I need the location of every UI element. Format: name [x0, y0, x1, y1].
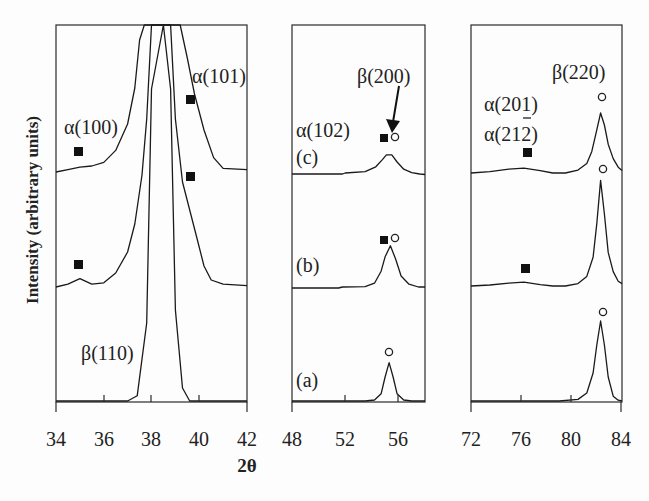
beta-circle-marker-icon: [391, 133, 398, 140]
annotation-alpha-102: α(102): [296, 119, 350, 142]
alpha-square-marker-icon: [523, 148, 532, 157]
tick-label: 52: [335, 428, 355, 450]
beta-circle-marker-icon: [598, 93, 605, 100]
annotation-alpha-201: α(201): [484, 93, 538, 116]
tick-label: 72: [461, 428, 481, 450]
tick-label: 40: [189, 428, 209, 450]
alpha-square-marker-icon: [521, 264, 530, 273]
beta-circle-marker-icon: [599, 308, 606, 315]
panel-1-ticks: [56, 395, 247, 412]
beta-circle-marker-icon: [391, 234, 398, 241]
xrd-trace-a: [471, 321, 622, 401]
alpha-square-marker-icon: [380, 236, 388, 244]
alpha-square-marker-icon: [74, 260, 83, 269]
trace-label-c: (c): [296, 146, 318, 169]
x-axis-label: 2θ: [237, 455, 257, 476]
panel-3-curves: [471, 113, 622, 401]
annotation-alpha-101: α(101): [192, 65, 246, 88]
trace-label-b: (b): [296, 254, 319, 277]
xrd-figure: Intensity (arbitrary units) 34 36 38 40 …: [0, 0, 649, 501]
annotation-alpha-2bar12: α(212): [484, 123, 538, 146]
annotation-beta-220: β(220): [552, 61, 606, 84]
panel-2-ticks: [292, 395, 398, 412]
panel-2: 48 52 56 β(200) α(102) (c) (b) (a): [282, 25, 425, 450]
arrowhead-icon: [386, 119, 400, 133]
alpha-square-marker-icon: [186, 172, 195, 181]
panel-2-curves: [292, 155, 425, 401]
panel-3-ticks: [471, 395, 621, 412]
panel-1: 34 36 38 40 42 α(100) α(101) β(110): [46, 25, 257, 450]
trace-label-a: (a): [296, 369, 318, 392]
y-axis-label: Intensity (arbitrary units): [23, 116, 42, 304]
beta-circle-marker-icon: [385, 348, 392, 355]
alpha-square-marker-icon: [74, 147, 83, 156]
tick-label: 84: [611, 428, 631, 450]
alpha-square-marker-icon: [186, 95, 195, 104]
beta-circle-marker-icon: [599, 165, 606, 172]
annotation-beta-200: β(200): [357, 65, 411, 88]
tick-label: 38: [141, 428, 161, 450]
tick-label: 80: [561, 428, 581, 450]
panel-3: 72 76 80 84 β(220) α(201) α(212): [461, 25, 631, 450]
chart-svg: Intensity (arbitrary units) 34 36 38 40 …: [0, 0, 649, 501]
tick-label: 76: [511, 428, 531, 450]
arrow-icon: [393, 86, 399, 122]
xrd-trace-b: [471, 180, 622, 286]
tick-label: 34: [46, 428, 66, 450]
annotation-alpha-100: α(100): [64, 116, 118, 139]
tick-label: 48: [282, 428, 302, 450]
alpha-square-marker-icon: [380, 134, 388, 142]
tick-label: 42: [237, 428, 257, 450]
annotation-beta-110: β(110): [81, 342, 134, 365]
tick-label: 36: [94, 428, 114, 450]
tick-label: 56: [388, 428, 408, 450]
